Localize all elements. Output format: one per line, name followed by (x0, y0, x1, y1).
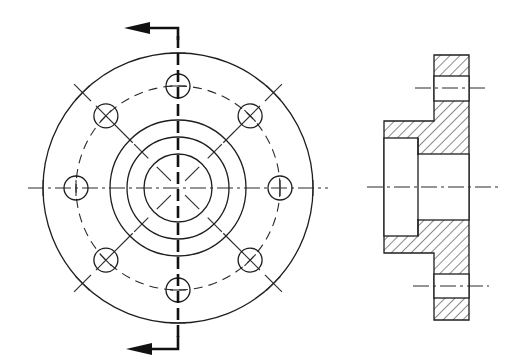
cutting-plane-top-leg (150, 28, 178, 40)
front-view (28, 22, 328, 355)
radial-tick-bore (185, 167, 199, 181)
radial-tick-bore (157, 195, 171, 209)
radial-tick-inner (208, 144, 222, 158)
section-arrow-top (124, 22, 150, 34)
section-arrow-bottom (126, 343, 152, 355)
radial-tick-inner (134, 144, 148, 158)
section-view (367, 55, 502, 320)
radial-tick-inner (208, 218, 222, 232)
radial-tick-bore (185, 195, 199, 209)
radial-tick-inner (134, 218, 148, 232)
radial-tick-bore (157, 167, 171, 181)
cutting-plane-bottom-leg (152, 336, 178, 349)
flange-drawing (0, 0, 524, 364)
